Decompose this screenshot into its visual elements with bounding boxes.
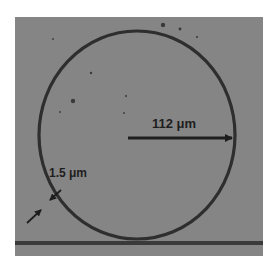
micrograph-figure: ) 112 μm 1.5 μm xyxy=(0,0,277,270)
radius-label: 112 μm xyxy=(152,116,196,131)
panel-label: ) xyxy=(6,19,15,49)
bus-waveguide xyxy=(15,241,263,245)
micrograph-svg: ) 112 μm 1.5 μm xyxy=(0,0,277,270)
width-label: 1.5 μm xyxy=(49,166,87,180)
